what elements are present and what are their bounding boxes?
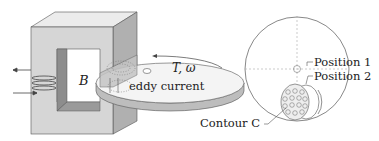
position-2-label: Position 2	[314, 69, 371, 83]
torque-label: T, ω	[172, 61, 196, 75]
position-1-label: Position 1	[314, 55, 371, 69]
eddy-current-label: eddy current	[129, 79, 205, 93]
contour-c-label: Contour C	[200, 116, 260, 130]
field-label-b: B	[78, 73, 89, 88]
diagram-canvas: B T, ω eddy current	[0, 0, 379, 141]
